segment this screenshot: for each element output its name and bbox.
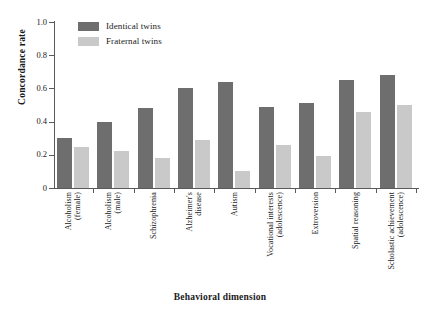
bar-identical-twins (380, 75, 395, 188)
bar-identical-twins (57, 138, 72, 188)
bar-fraternal-twins (195, 140, 210, 188)
legend-swatch-identical-twins (78, 22, 99, 31)
legend-item-fraternal-twins: Fraternal twins (78, 35, 162, 48)
x-axis-tick (416, 188, 417, 193)
y-axis-tick-label: 0.2 (0, 150, 47, 159)
x-axis-tick (376, 188, 377, 193)
bar-identical-twins (218, 82, 233, 188)
bar-chart-figure: Concordance rate 1.00.80.60.40.20 Alcoho… (0, 0, 440, 315)
y-axis-tick (49, 188, 55, 189)
bar-identical-twins (97, 122, 112, 188)
x-axis-title: Behavioral dimension (0, 292, 440, 302)
x-axis-tick (214, 188, 215, 193)
y-axis-tick-label: 0 (0, 184, 47, 193)
y-axis-tick-label: 0.8 (0, 51, 47, 60)
x-axis-tick (134, 188, 135, 193)
y-axis-tick-label: 0.4 (0, 117, 47, 126)
x-axis-tick (335, 188, 336, 193)
bar-identical-twins (178, 88, 193, 188)
bar-fraternal-twins (276, 145, 291, 188)
x-axis-tick (174, 188, 175, 193)
y-axis-tick-label: 0.6 (0, 84, 47, 93)
legend-label-fraternal-twins: Fraternal twins (106, 37, 162, 46)
x-axis-line (54, 188, 419, 189)
bar-identical-twins (138, 108, 153, 188)
legend-item-identical-twins: Identical twins (78, 20, 162, 33)
legend-label-identical-twins: Identical twins (106, 22, 161, 31)
x-axis-tick (93, 188, 94, 193)
bar-fraternal-twins (316, 156, 331, 188)
bar-identical-twins (339, 80, 354, 188)
y-axis-tick-label: 1.0 (0, 18, 47, 27)
bar-fraternal-twins (356, 112, 371, 188)
bar-identical-twins (299, 103, 314, 188)
chart-legend: Identical twins Fraternal twins (78, 20, 162, 50)
legend-swatch-fraternal-twins (78, 37, 99, 46)
x-axis-tick (255, 188, 256, 193)
bar-fraternal-twins (397, 105, 412, 188)
bar-fraternal-twins (114, 151, 129, 188)
x-axis-tick (295, 188, 296, 193)
bar-identical-twins (259, 107, 274, 188)
bar-fraternal-twins (74, 147, 89, 189)
bar-fraternal-twins (235, 171, 250, 188)
bar-fraternal-twins (155, 158, 170, 188)
